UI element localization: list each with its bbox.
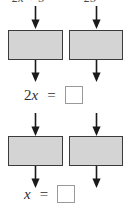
arrow-down-icon-out-right-1 — [91, 60, 102, 82]
equation-2: x = — [24, 184, 75, 204]
arrow-down-icon-out-right-2 — [91, 166, 102, 188]
equation-1-answer-box[interactable] — [65, 86, 83, 104]
equation-1-variable: x — [32, 87, 39, 103]
equation-1-left-term: 2x — [24, 88, 38, 103]
op-box-2-left — [8, 136, 63, 166]
equation-1: 2x = — [24, 85, 83, 105]
diagram-canvas: 2x + 5 25 2x = — [0, 0, 127, 206]
op-box-1-left — [8, 30, 63, 60]
arrow-down-icon-in-right-1 — [91, 6, 102, 29]
equation-1-coefficient: 2 — [24, 87, 32, 103]
arrow-down-icon-out-left-1 — [30, 60, 41, 82]
op-box-1-right — [69, 30, 123, 60]
op-box-2-right — [69, 136, 123, 166]
equation-1-operator: = — [47, 88, 55, 103]
equation-2-operator: = — [40, 187, 48, 202]
equation-2-left-term: x — [24, 187, 31, 202]
equation-2-answer-box[interactable] — [57, 185, 75, 203]
arrow-down-icon-in-left-1 — [30, 6, 41, 29]
arrow-down-icon-in-left-2 — [30, 113, 41, 136]
arrow-down-icon-in-right-2 — [91, 113, 102, 136]
equation-2-variable: x — [24, 186, 31, 202]
